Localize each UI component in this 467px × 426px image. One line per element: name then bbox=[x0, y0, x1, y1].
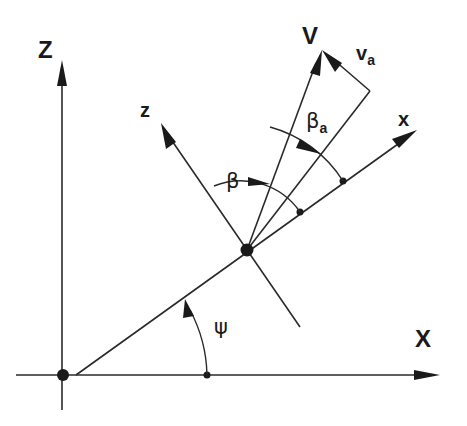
psi-angle-arc bbox=[183, 299, 207, 375]
label-body-z: z bbox=[140, 99, 150, 121]
body-z-axis bbox=[161, 123, 300, 327]
label-velocity: V bbox=[302, 22, 318, 49]
velocity-arrowhead-icon bbox=[310, 50, 322, 76]
body-center-point bbox=[241, 244, 254, 257]
z-axis-arrowhead-icon bbox=[57, 60, 67, 86]
body-z-arrowhead-icon bbox=[161, 123, 176, 149]
beta-a-arrowhead-icon bbox=[296, 139, 321, 154]
label-beta-a: βa bbox=[306, 109, 327, 136]
x-axis-arrowhead-icon bbox=[414, 370, 440, 380]
label-body-x: x bbox=[398, 108, 409, 130]
coordinate-diagram: Z X x z V va β βa ψ bbox=[0, 0, 467, 426]
label-global-x: X bbox=[415, 325, 431, 352]
psi-arrowhead-icon bbox=[183, 299, 194, 318]
beta-arrowhead-icon bbox=[248, 177, 270, 186]
label-global-z: Z bbox=[38, 36, 53, 63]
label-relative-velocity: va bbox=[356, 42, 375, 68]
global-z-axis bbox=[57, 60, 67, 410]
label-beta: β bbox=[226, 169, 239, 193]
label-psi: ψ bbox=[214, 315, 228, 339]
origin-point bbox=[57, 369, 69, 381]
relative-velocity-arrowhead-icon bbox=[322, 50, 342, 72]
